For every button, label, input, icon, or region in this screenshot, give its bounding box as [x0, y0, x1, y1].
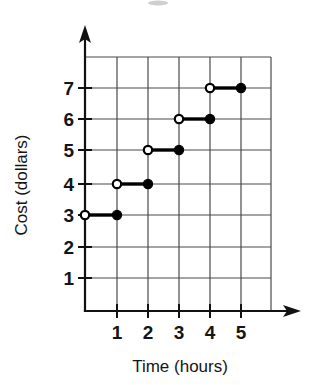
y-tick-label-7: 7	[63, 78, 74, 99]
x-tick-label-5: 5	[236, 322, 247, 343]
x-tick-label-4: 4	[205, 322, 216, 343]
open-point-4-7	[206, 84, 214, 92]
closed-point-2-4	[143, 179, 152, 188]
open-point-3-6	[175, 115, 183, 123]
open-point-2-5	[144, 146, 152, 154]
step-function-chart: 7 6 5 4 3 2 1 1 2 3 4 5	[0, 0, 315, 385]
closed-point-1-3	[112, 210, 121, 219]
x-tick-label-3: 3	[174, 322, 185, 343]
step-function-segments	[85, 88, 241, 215]
y-tick-label-4: 4	[63, 174, 74, 195]
y-tick-label-3: 3	[63, 205, 74, 226]
closed-point-4-6	[205, 114, 214, 123]
closed-point-5-7	[236, 83, 245, 92]
scan-artifact	[148, 1, 168, 6]
y-axis-title: Cost (dollars)	[12, 134, 31, 235]
x-axis-tick-labels: 1 2 3 4 5	[112, 322, 247, 343]
y-tick-label-5: 5	[63, 140, 74, 161]
open-point-0-3	[81, 211, 89, 219]
x-tick-label-1: 1	[112, 322, 123, 343]
x-axis-title: Time (hours)	[132, 357, 228, 376]
closed-point-3-5	[174, 145, 183, 154]
y-axis	[79, 25, 91, 311]
open-point-1-4	[113, 180, 121, 188]
y-axis-tick-labels: 7 6 5 4 3 2 1	[63, 78, 74, 289]
y-tick-label-1: 1	[63, 268, 74, 289]
y-tick-label-6: 6	[63, 109, 74, 130]
chart-canvas: 7 6 5 4 3 2 1 1 2 3 4 5	[0, 0, 315, 385]
y-tick-label-2: 2	[63, 237, 74, 258]
x-tick-label-2: 2	[143, 322, 154, 343]
